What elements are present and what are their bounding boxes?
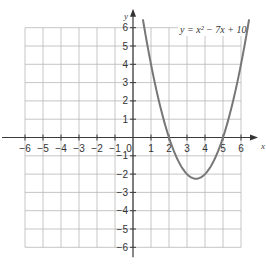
y-axis-arrow-icon xyxy=(130,9,136,17)
x-axis-label: x xyxy=(260,141,265,151)
x-tick-label: 1 xyxy=(148,143,154,154)
x-tick-label: −3 xyxy=(73,143,85,154)
equation-text: y = x² − 7x + 10 xyxy=(179,24,247,35)
x-axis-arrow-icon xyxy=(250,135,258,141)
x-tick-label: 3 xyxy=(184,143,190,154)
y-tick-label: −6 xyxy=(117,242,129,253)
x-tick-label: 4 xyxy=(202,143,208,154)
parabola-chart: xy −6−5−4−3−2−10123456−6−5−4−3−2−1123456… xyxy=(0,0,266,266)
y-axis-label: y xyxy=(123,11,128,21)
y-tick-label: −1 xyxy=(117,150,129,161)
y-tick-label: 3 xyxy=(122,77,128,88)
equation-label: y = x² − 7x + 10 xyxy=(178,22,247,36)
y-tick-label: 5 xyxy=(122,41,128,52)
x-tick-label: 6 xyxy=(238,143,244,154)
y-tick-label: −4 xyxy=(117,205,129,216)
y-tick-label: 2 xyxy=(122,95,128,106)
y-tick-label: 6 xyxy=(122,22,128,33)
x-tick-label: −6 xyxy=(19,143,31,154)
x-tick-label: −5 xyxy=(37,143,49,154)
y-tick-label: −5 xyxy=(117,224,129,235)
y-tick-label: 1 xyxy=(122,114,128,125)
y-tick-label: −2 xyxy=(117,169,129,180)
parabola-curve xyxy=(143,19,249,178)
y-tick-label: 4 xyxy=(122,59,128,70)
x-tick-label: −4 xyxy=(55,143,67,154)
y-tick-label: −3 xyxy=(117,187,129,198)
x-tick-label: −2 xyxy=(91,143,103,154)
